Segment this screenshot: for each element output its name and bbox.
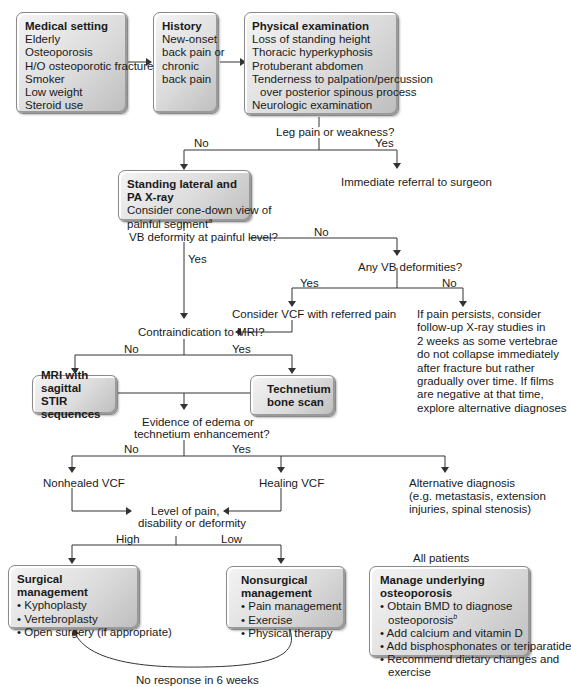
healing-vcf-text: Healing VCF [259, 477, 324, 490]
edema-question-line2: technetium enhancement? [134, 428, 270, 441]
medical-setting-item: Smoker [25, 73, 119, 86]
vb-deformity-no-label: No [314, 226, 329, 239]
surgical-item: • Vertebroplasty [17, 613, 131, 626]
leg-pain-yes-label: Yes [375, 137, 394, 150]
technetium-box: Technetium bone scan [250, 375, 336, 417]
vb-deformity-yes-label: Yes [188, 253, 207, 266]
nonsurgical-item: • Pain management [241, 600, 337, 613]
footnote-b: b [453, 613, 457, 620]
osteoporosis-item: osteoporosisb [380, 614, 522, 627]
nonsurgical-management-title: Nonsurgical management [241, 574, 337, 600]
level-pain-line2: disability or deformity [138, 517, 246, 530]
medical-setting-box: Medical setting Elderly Osteoporosis H/O… [16, 12, 128, 114]
medical-setting-title: Medical setting [25, 20, 119, 33]
history-item: New-onset [162, 33, 210, 46]
osteoporosis-item: • Obtain BMD to diagnose [380, 600, 522, 613]
physical-exam-item: Thoracic hyperkyphosis [252, 46, 390, 59]
medical-setting-item: Steroid use [25, 99, 119, 112]
consider-vcf-text: Consider VCF with referred pain [232, 308, 396, 321]
xray-item: painful segmenta [127, 218, 243, 231]
osteoporosis-item: • Add calcium and vitamin D [380, 627, 522, 640]
osteoporosis-item: • Recommend dietary changes and [380, 653, 522, 666]
nonsurgical-management-box: Nonsurgical management • Pain management… [226, 566, 346, 630]
history-item: back pain [162, 73, 210, 86]
history-item: back pain or [162, 46, 210, 59]
history-item: chronic [162, 60, 210, 73]
all-patients-label: All patients [413, 552, 469, 565]
nonsurgical-item: • Exercise [241, 614, 337, 627]
physical-exam-item: Loss of standing height [252, 33, 390, 46]
mri-title: STIR sequences [41, 395, 109, 421]
surgical-management-box: Surgical management • Kyphoplasty • Vert… [8, 565, 140, 630]
xray-box: Standing lateral and PA X-ray Consider c… [118, 170, 252, 222]
contraindication-mri-question: Contraindication to MRI? [138, 326, 265, 339]
xray-item: Consider cone-down view of [127, 204, 243, 217]
vb-deformity-question: VB deformity at painful level? [129, 231, 278, 244]
xray-title: Standing lateral and PA X-ray [127, 178, 243, 204]
level-low-label: Low [221, 533, 242, 546]
alternative-diagnosis-text: Alternative diagnosis (e.g. metastasis, … [409, 477, 546, 517]
osteoporosis-item: exercise [380, 666, 522, 679]
pain-persists-text: If pain persists, consider follow-up X-r… [417, 308, 567, 415]
surgical-item: • Kyphoplasty [17, 599, 131, 612]
leg-pain-no-label: No [194, 137, 209, 150]
mri-yes-label: Yes [232, 343, 251, 356]
history-box: History New-onset back pain or chronic b… [153, 12, 219, 114]
physical-examination-box: Physical examination Loss of standing he… [244, 12, 399, 116]
physical-exam-item: Protuberant abdomen [252, 60, 390, 73]
medical-setting-item: Elderly [25, 33, 119, 46]
edema-no-label: No [124, 443, 139, 456]
osteoporosis-item: • Add bisphosphonates or teriparatide [380, 640, 522, 653]
physical-exam-item: over posterior spinous process [252, 86, 390, 99]
osteoporosis-title: Manage underlying osteoporosis [380, 574, 522, 600]
mri-no-label: No [124, 343, 139, 356]
medical-setting-item: H/O osteoporotic fracture [25, 60, 119, 73]
no-response-label: No response in 6 weeks [136, 674, 259, 687]
medical-setting-item: Low weight [25, 86, 119, 99]
technetium-title: Technetium [267, 383, 327, 396]
physical-exam-item: Neurologic examination [252, 99, 390, 112]
any-vb-no-label: No [442, 277, 457, 290]
medical-setting-item: Osteoporosis [25, 46, 119, 59]
mri-box: MRI with sagittal STIR sequences [32, 375, 118, 415]
edema-yes-label: Yes [232, 443, 251, 456]
physical-exam-item: Tenderness to palpation/percussion [252, 73, 390, 86]
nonhealed-vcf-text: Nonhealed VCF [43, 477, 125, 490]
physical-examination-title: Physical examination [252, 20, 390, 33]
any-vb-deformities-question: Any VB deformities? [358, 261, 462, 274]
footnote-a: a [208, 217, 212, 224]
manage-osteoporosis-box: Manage underlying osteoporosis • Obtain … [369, 566, 531, 658]
level-high-label: High [116, 533, 140, 546]
surgical-management-title: Surgical management [17, 573, 131, 599]
surgical-item: • Open surgery (if appropriate) [17, 626, 131, 639]
any-vb-yes-label: Yes [300, 277, 319, 290]
mri-title: MRI with sagittal [41, 369, 109, 395]
technetium-title: bone scan [267, 396, 327, 409]
history-title: History [162, 20, 210, 33]
immediate-referral-text: Immediate referral to surgeon [341, 176, 492, 189]
nonsurgical-item: • Physical therapy [241, 627, 337, 640]
